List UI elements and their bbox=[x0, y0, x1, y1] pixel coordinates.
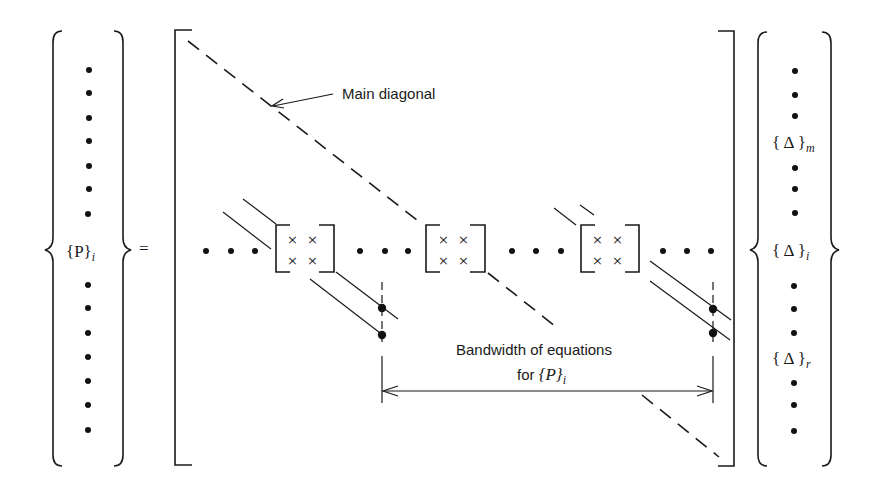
main-diagonal-arrow-icon bbox=[272, 99, 284, 108]
equals-sign: = bbox=[139, 239, 149, 258]
svg-text:×: × bbox=[287, 232, 298, 247]
svg-text:×: × bbox=[592, 232, 603, 247]
left-vector-dots-above bbox=[85, 67, 92, 217]
submatrix-2: × × × × bbox=[426, 225, 485, 272]
svg-text:×: × bbox=[458, 232, 469, 247]
svg-text:×: × bbox=[612, 232, 623, 247]
svg-text:×: × bbox=[592, 253, 603, 268]
delta-i-label: { Δ }i bbox=[772, 241, 809, 263]
main-diagonal-annotation: Main diagonal bbox=[272, 85, 435, 108]
bandwidth-right-marker bbox=[709, 282, 717, 403]
right-vector: { Δ }m { Δ }i { Δ }r bbox=[750, 32, 839, 466]
left-vector: {P}i bbox=[45, 31, 131, 466]
bandwidth-left-marker bbox=[378, 282, 386, 403]
svg-text:×: × bbox=[307, 253, 318, 268]
matrix-left-bracket bbox=[175, 30, 192, 465]
right-vector-open-brace bbox=[750, 32, 767, 466]
bandwidth-dimension-arrow bbox=[383, 386, 712, 396]
svg-text:×: × bbox=[438, 253, 449, 268]
svg-text:×: × bbox=[612, 253, 623, 268]
delta-m-label: { Δ }m bbox=[772, 133, 815, 155]
left-vector-close-brace bbox=[114, 31, 131, 466]
svg-text:×: × bbox=[307, 232, 318, 247]
main-diagonal-label: Main diagonal bbox=[342, 85, 435, 102]
right-vector-close-brace bbox=[822, 32, 839, 466]
left-vector-label: {P}i bbox=[66, 242, 95, 264]
matrix-right-bracket bbox=[718, 31, 734, 466]
left-vector-dots-below bbox=[85, 282, 91, 433]
svg-text:×: × bbox=[458, 253, 469, 268]
svg-text:Bandwidth of equations: Bandwidth of equations bbox=[456, 341, 612, 358]
delta-r-label: { Δ }r bbox=[772, 349, 811, 371]
svg-text:for {P}i: for {P}i bbox=[517, 365, 566, 387]
submatrix-3: × × × × bbox=[581, 225, 639, 272]
svg-text:×: × bbox=[287, 253, 298, 268]
svg-text:×: × bbox=[438, 232, 449, 247]
banded-matrix-diagram: {P}i = Main diagonal bbox=[0, 0, 873, 488]
submatrix-1: × × × × bbox=[276, 225, 334, 272]
bandwidth-label: Bandwidth of equations for {P}i bbox=[456, 341, 612, 387]
coefficient-matrix: Main diagonal × × × × bbox=[175, 30, 734, 466]
left-vector-open-brace bbox=[45, 31, 62, 466]
